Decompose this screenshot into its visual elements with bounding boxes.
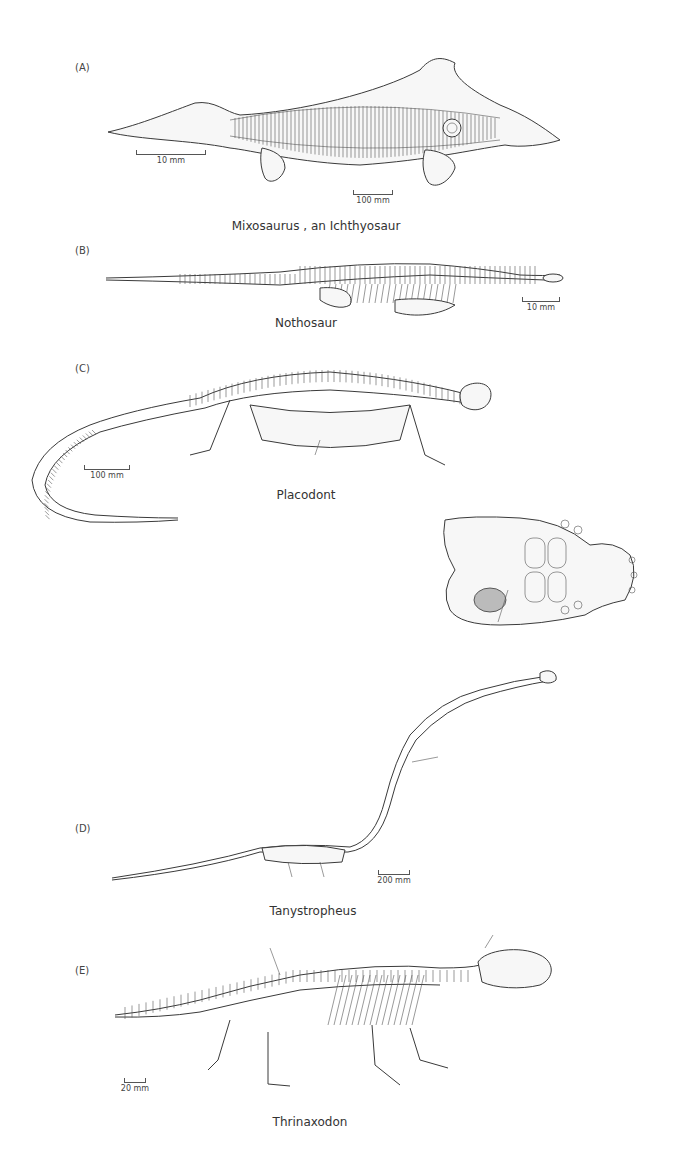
- thrinaxodon-illustration: [0, 0, 673, 1166]
- scale-bar-e-20mm: 20 mm: [114, 1078, 156, 1093]
- caption-thrinaxodon: Thrinaxodon: [273, 1115, 348, 1129]
- cropped-caption-line: [0, 1158, 673, 1166]
